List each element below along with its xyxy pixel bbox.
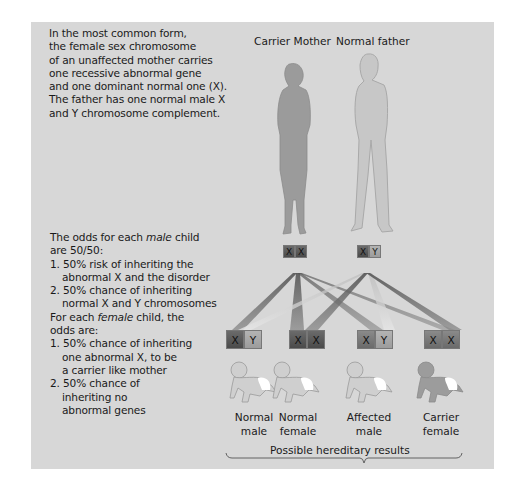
inheritance-beams: [232, 273, 462, 330]
mother-chromosomes: X X: [283, 245, 307, 258]
father-chromosomes: X Y: [357, 245, 381, 258]
female-odds-intro: odds are:: [50, 324, 217, 337]
female-odds-item: 2. 50% chance of: [50, 377, 217, 390]
baby-normal-male-icon: [230, 362, 276, 402]
child-label-carrier-female: Carrier female: [411, 411, 471, 438]
male-word: male: [146, 231, 172, 243]
father-silhouette-icon: [351, 54, 393, 232]
chromosome-y: Y: [375, 330, 393, 349]
baby-affected-male-icon: [346, 362, 392, 402]
female-odds-item: inheriting no: [50, 391, 217, 404]
male-odds-ratio: are 50/50:: [50, 244, 217, 257]
chromosome-x: X: [307, 330, 325, 349]
text: child: [172, 231, 200, 243]
child-chromosomes-carrier-female: X X: [424, 330, 460, 349]
text: child, the: [133, 311, 184, 323]
mother-silhouette-icon: [278, 63, 311, 234]
chromosome-x: X: [283, 245, 295, 258]
chromosome-x-abnormal: X: [357, 330, 375, 349]
chromosome-y: Y: [244, 330, 262, 349]
chromosome-x: X: [357, 245, 369, 258]
child-label-normal-female: Normal female: [268, 411, 328, 438]
label-line: female: [411, 425, 471, 439]
female-odds-item: abnormal genes: [50, 404, 217, 417]
male-odds-item: abnormal X and the disorder: [50, 271, 217, 284]
child-label-affected-male: Affected male: [339, 411, 399, 438]
male-odds-item: 1. 50% risk of inheriting the: [50, 258, 217, 271]
chromosome-x: X: [289, 330, 307, 349]
chromosome-x: X: [226, 330, 244, 349]
label-line: Normal: [268, 411, 328, 425]
female-word: female: [98, 311, 134, 323]
female-odds-item: a carrier like mother: [50, 364, 217, 377]
text: For each: [50, 311, 98, 323]
female-odds-heading: For each female child, the: [50, 311, 217, 324]
label-line: Carrier: [411, 411, 471, 425]
child-chromosomes-normal-male: X Y: [226, 330, 262, 349]
results-label: Possible hereditary results: [270, 444, 410, 456]
baby-normal-female-icon: [273, 362, 319, 402]
child-chromosomes-normal-female: X X: [289, 330, 325, 349]
baby-carrier-female-icon: [417, 362, 463, 402]
male-odds-item: 2. 50% chance of inheriting: [50, 284, 217, 297]
chromosome-x: X: [424, 330, 442, 349]
label-line: female: [268, 425, 328, 439]
chromosome-y: Y: [369, 245, 381, 258]
text: The odds for each: [50, 231, 146, 243]
female-odds-item: 1. 50% chance of inheriting: [50, 337, 217, 350]
chromosome-x-abnormal: X: [442, 330, 460, 349]
label-line: male: [339, 425, 399, 439]
label-line: Affected: [339, 411, 399, 425]
male-odds-heading: The odds for each male child: [50, 231, 217, 244]
chromosome-x-abnormal: X: [295, 245, 307, 258]
odds-text: The odds for each male child are 50/50: …: [50, 231, 217, 417]
female-odds-item: one abnormal X, to be: [50, 351, 217, 364]
male-odds-item: normal X and Y chromosomes: [50, 297, 217, 310]
child-chromosomes-affected-male: X Y: [357, 330, 393, 349]
